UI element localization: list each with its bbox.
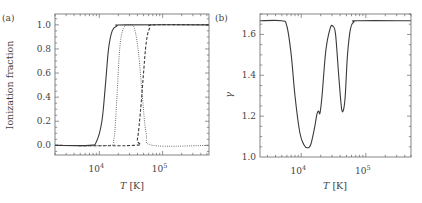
panel-a-curves bbox=[55, 25, 209, 147]
series-gamma-line bbox=[260, 20, 411, 147]
panel-b-ylabel: γ bbox=[223, 92, 234, 98]
panel-a-xtick-labels: 104105 bbox=[88, 162, 167, 174]
panel-b-gamma: (b) γ 1.01.21.41.6 104105 T[K] bbox=[215, 13, 411, 191]
y-tick-label: 1.0 bbox=[242, 152, 257, 162]
panel-a-ylabel: Ionization fraction bbox=[4, 41, 15, 130]
panel-a-label: (a) bbox=[2, 13, 14, 23]
y-tick-label: 0.8 bbox=[37, 44, 52, 54]
y-tick-label: 1.4 bbox=[242, 70, 257, 80]
panel-b-curves bbox=[260, 20, 411, 147]
y-tick-label: 0.0 bbox=[37, 140, 52, 150]
panel-b-label: (b) bbox=[215, 13, 228, 23]
x-tick-label: 104 bbox=[290, 164, 306, 176]
figure: (a) Ionization fraction 0.00.20.40.60.81… bbox=[0, 0, 422, 203]
y-tick-label: 0.6 bbox=[37, 68, 52, 78]
x-tick-label: 104 bbox=[88, 162, 104, 174]
panel-a-xlabel: T[K] bbox=[120, 180, 144, 191]
panel-a-ticks bbox=[55, 14, 209, 155]
panel-a-frame bbox=[55, 14, 209, 155]
panel-a-ionization-fraction: (a) Ionization fraction 0.00.20.40.60.81… bbox=[2, 13, 209, 191]
y-tick-label: 1.6 bbox=[242, 29, 257, 39]
panel-b-ytick-labels: 1.01.21.41.6 bbox=[242, 29, 257, 162]
panel-b-xlabel: T[K] bbox=[323, 180, 347, 191]
y-tick-label: 0.2 bbox=[37, 116, 51, 126]
x-tick-label: 105 bbox=[355, 164, 371, 176]
y-tick-label: 0.4 bbox=[37, 92, 52, 102]
series-solid-line bbox=[55, 25, 209, 146]
series-dashed-line bbox=[55, 25, 209, 146]
y-tick-label: 1.2 bbox=[242, 111, 256, 121]
y-tick-label: 1.0 bbox=[37, 20, 52, 30]
panel-b-xtick-labels: 104105 bbox=[290, 164, 370, 176]
panel-a-ytick-labels: 0.00.20.40.60.81.0 bbox=[37, 20, 52, 151]
x-tick-label: 105 bbox=[152, 162, 168, 174]
series-dotted-line bbox=[55, 25, 209, 147]
